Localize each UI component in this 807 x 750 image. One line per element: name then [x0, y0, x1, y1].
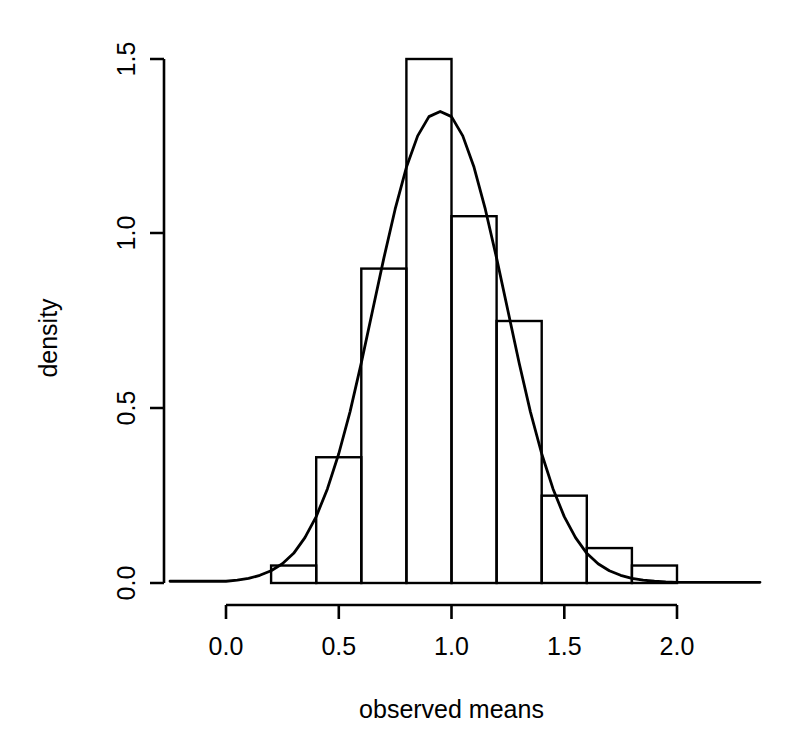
- histogram-bar: [361, 269, 406, 583]
- y-axis: [150, 59, 164, 583]
- histogram-bar: [452, 216, 497, 583]
- x-tick-label: 2.0: [660, 632, 695, 660]
- x-tick-label: 1.5: [547, 632, 582, 660]
- y-tick-label: 0.0: [112, 566, 140, 601]
- plot-canvas: 0.0 0.5 1.0 1.5 density 0.0 0.5: [0, 0, 807, 750]
- x-tick-label: 0.5: [321, 632, 356, 660]
- y-tick-label: 1.5: [112, 42, 140, 77]
- y-tick-label: 1.0: [112, 216, 140, 251]
- histogram-bar: [316, 457, 361, 583]
- histogram-bar: [542, 496, 587, 583]
- y-axis-line: [150, 59, 164, 583]
- y-tick-labels: 0.0 0.5 1.0 1.5: [112, 42, 140, 601]
- density-curve: [170, 111, 760, 582]
- x-axis: [226, 605, 677, 619]
- x-axis-line: [226, 605, 677, 619]
- histogram-plot: 0.0 0.5 1.0 1.5 density 0.0 0.5: [0, 0, 807, 750]
- y-axis-title: density: [34, 298, 62, 378]
- x-tick-labels: 0.0 0.5 1.0 1.5 2.0: [209, 632, 695, 660]
- y-tick-label: 0.5: [112, 391, 140, 426]
- x-axis-title: observed means: [359, 695, 544, 723]
- x-tick-label: 1.0: [434, 632, 469, 660]
- histogram-bars: [271, 59, 677, 583]
- x-tick-label: 0.0: [209, 632, 244, 660]
- histogram-bar: [406, 59, 451, 583]
